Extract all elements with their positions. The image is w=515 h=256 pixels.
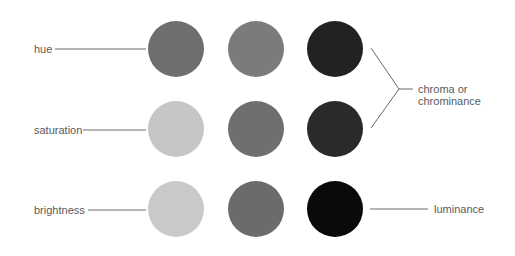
color-attributes-diagram: hue saturation brightness chroma or chro… xyxy=(0,0,515,256)
circle-saturation-2 xyxy=(228,101,284,157)
circle-brightness-2 xyxy=(228,181,284,237)
circle-hue-2 xyxy=(228,21,284,77)
chroma-label-line1: chroma or xyxy=(418,83,468,95)
chroma-label-line2: chrominance xyxy=(418,95,481,107)
circle-saturation-3 xyxy=(307,101,363,157)
circle-brightness-1 xyxy=(148,181,204,237)
luminance-label: luminance xyxy=(434,203,484,215)
chroma-bracket-upper xyxy=(371,48,399,89)
saturation-label: saturation xyxy=(34,124,82,136)
circle-brightness-3 xyxy=(307,181,363,237)
brightness-label: brightness xyxy=(34,204,85,216)
chroma-bracket-lower xyxy=(371,89,399,128)
circle-hue-1 xyxy=(148,21,204,77)
hue-label: hue xyxy=(34,43,52,55)
circle-saturation-1 xyxy=(148,101,204,157)
circle-hue-3 xyxy=(307,21,363,77)
